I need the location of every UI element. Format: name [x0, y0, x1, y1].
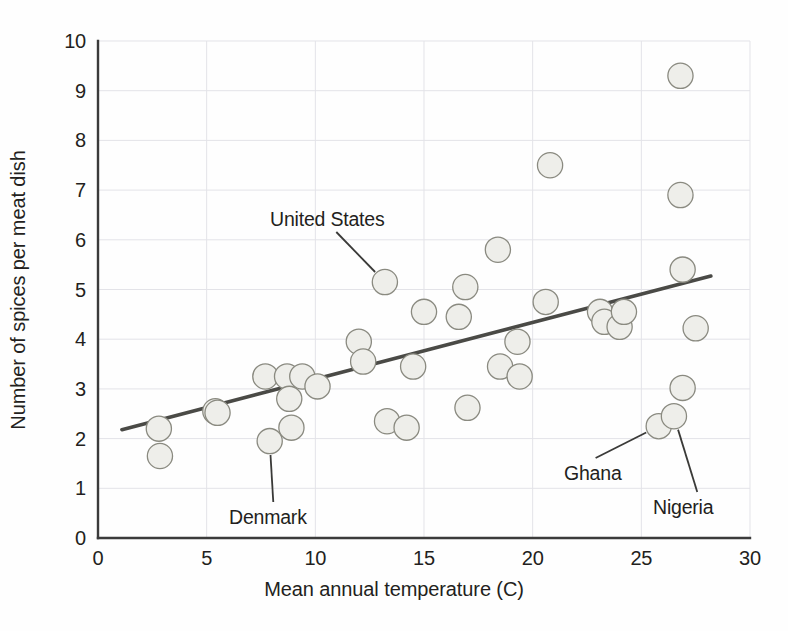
annotation-leader-line: [596, 432, 647, 458]
data-point-marker: [668, 63, 693, 88]
data-point-marker: [611, 299, 636, 324]
annotation-label: Ghana: [564, 462, 622, 485]
y-axis-title: Number of spices per meat dish: [7, 150, 30, 429]
data-point-marker: [146, 416, 171, 441]
annotation-label: Denmark: [229, 506, 307, 529]
y-tick-label: 10: [40, 30, 86, 53]
x-tick-label: 20: [522, 547, 544, 570]
data-point-marker: [455, 395, 480, 420]
data-point-marker: [351, 349, 376, 374]
y-tick-label: 4: [40, 328, 86, 351]
x-tick-label: 30: [739, 547, 761, 570]
data-point-marker: [147, 443, 172, 468]
data-point-marker: [661, 404, 686, 429]
data-point-marker: [411, 299, 436, 324]
data-point-marker: [401, 354, 426, 379]
x-tick-label: 10: [304, 547, 326, 570]
data-point-marker: [668, 182, 693, 207]
y-tick-label: 1: [40, 477, 86, 500]
y-tick-label: 9: [40, 79, 86, 102]
data-point-marker: [372, 269, 397, 294]
y-tick-label: 7: [40, 179, 86, 202]
data-points: [146, 63, 708, 468]
annotation-label: United States: [270, 208, 384, 231]
annotation-leader-lines: [271, 232, 698, 502]
data-point-marker: [670, 375, 695, 400]
data-point-marker: [533, 289, 558, 314]
annotation-leader-line: [336, 232, 375, 272]
x-tick-label: 25: [630, 547, 652, 570]
data-point-marker: [305, 374, 330, 399]
y-tick-label: 0: [40, 527, 86, 550]
scatter-chart-figure: 012345678910 051015202530 United StatesD…: [0, 0, 788, 631]
data-point-marker: [683, 316, 708, 341]
x-tick-label: 0: [93, 547, 104, 570]
gridlines: [98, 41, 750, 538]
y-tick-label: 5: [40, 278, 86, 301]
data-point-marker: [446, 304, 471, 329]
data-point-marker: [670, 257, 695, 282]
y-tick-label: 3: [40, 377, 86, 400]
data-point-marker: [394, 415, 419, 440]
data-point-marker: [257, 428, 282, 453]
data-point-marker: [507, 364, 532, 389]
data-point-marker: [505, 329, 530, 354]
y-tick-label: 8: [40, 129, 86, 152]
annotation-label: Nigeria: [653, 496, 713, 519]
annotation-leader-line: [271, 455, 274, 502]
x-tick-label: 15: [413, 547, 435, 570]
data-point-marker: [277, 386, 302, 411]
y-tick-label: 2: [40, 427, 86, 450]
data-point-marker: [279, 415, 304, 440]
data-point-marker: [537, 153, 562, 178]
y-tick-label: 6: [40, 228, 86, 251]
x-tick-label: 5: [201, 547, 212, 570]
data-point-marker: [453, 274, 478, 299]
data-point-marker: [485, 237, 510, 262]
data-point-marker: [205, 400, 230, 425]
x-axis-title: Mean annual temperature (C): [0, 578, 788, 601]
plot-canvas: [0, 0, 788, 631]
